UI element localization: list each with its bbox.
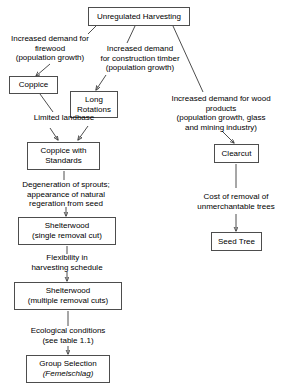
node-label-line1: Long: [85, 95, 103, 105]
node-label-line1: Unregulated Harvesting: [97, 12, 181, 22]
edge-label-line: Limited landbase: [16, 113, 112, 123]
flowchart-canvas: Unregulated Harvesting Coppice Long Rota…: [0, 0, 289, 391]
edge-label-line: appearance of natural: [2, 190, 130, 200]
node-unregulated-harvesting[interactable]: Unregulated Harvesting: [88, 7, 190, 26]
edge-harvesting-to-firewood-label: [88, 26, 96, 34]
edge-label-line: firewood: [2, 44, 98, 54]
node-seed-tree[interactable]: Seed Tree: [211, 232, 262, 251]
edge-label-line: regeration from seed: [2, 199, 130, 209]
edge-wood-products-to-clearcut: [222, 131, 234, 143]
node-label-line1: Coppice with: [41, 146, 87, 156]
edge-label-ecological-conditions: Ecological conditions (see table 1.1): [13, 326, 123, 345]
node-label-line1: Shelterwood: [46, 286, 90, 296]
edge-label-line: (see table 1.1): [13, 336, 123, 346]
node-label-line1: Clearcut: [222, 149, 252, 159]
edge-label-line: Degeneration of sprouts;: [2, 180, 130, 190]
edge-timber-to-long-rotations: [96, 75, 106, 90]
edge-label-construction-timber-demand: Increased demand for construction timber…: [88, 44, 192, 73]
edge-label-line: (population growth, glass: [156, 113, 286, 123]
edge-coppice-to-landbase-label: [40, 94, 53, 112]
edge-label-line: Flexibility in: [13, 253, 121, 263]
edge-label-line: Increased demand for wood: [156, 94, 286, 104]
edge-label-line: Cost of removal of: [176, 192, 289, 202]
edge-landbase-to-coppice-standards: [50, 128, 58, 140]
edge-label-line: unmerchantable trees: [176, 202, 289, 212]
edge-label-line: (population growth): [88, 63, 192, 73]
node-label-line2: (multiple removal cuts): [28, 296, 108, 306]
edge-label-wood-products-demand: Increased demand for wood products (popu…: [156, 94, 286, 132]
node-shelterwood-multiple-removal-cuts[interactable]: Shelterwood (multiple removal cuts): [14, 282, 122, 310]
edge-label-degeneration-of-sprouts: Degeneration of sprouts; appearance of n…: [2, 180, 130, 209]
node-clearcut[interactable]: Clearcut: [214, 144, 259, 163]
node-label-line1: Shelterwood: [45, 221, 89, 231]
edge-label-line: Increased demand: [88, 44, 192, 54]
edge-long-rotations-to-coppice-standards: [78, 126, 88, 140]
node-label-line2: Standards: [45, 156, 81, 166]
edge-label-line: Increased demand for: [2, 34, 98, 44]
node-group-selection[interactable]: Group Selection (Femelschlag): [26, 355, 110, 383]
node-coppice[interactable]: Coppice: [9, 76, 58, 94]
edge-label-line: (population growth): [2, 53, 98, 63]
edge-label-line: Ecological conditions: [13, 326, 123, 336]
edge-label-flexibility-harvesting: Flexibility in harvesting schedule: [13, 253, 121, 272]
edge-label-line: harvesting schedule: [13, 263, 121, 273]
node-coppice-with-standards[interactable]: Coppice with Standards: [27, 142, 100, 170]
edge-harvesting-to-timber-label: [127, 26, 135, 43]
edge-label-line: for construction timber: [88, 54, 192, 64]
node-label-line1: Seed Tree: [218, 237, 255, 247]
node-shelterwood-single-removal-cut[interactable]: Shelterwood (single removal cut): [18, 217, 116, 245]
edge-label-line: and mining industry): [156, 123, 286, 133]
node-label-line1: Group Selection: [39, 359, 96, 369]
node-label-line1: Coppice: [19, 80, 48, 90]
edge-label-line: products: [156, 104, 286, 114]
node-label-line2: (Femelschlag): [43, 369, 94, 379]
edge-label-limited-landbase: Limited landbase: [16, 113, 112, 123]
edge-firewood-to-coppice: [36, 64, 50, 76]
edge-label-firewood-demand: Increased demand for firewood (populatio…: [2, 34, 98, 63]
node-label-line2: (single removal cut): [32, 231, 102, 241]
edge-label-cost-of-removal: Cost of removal of unmerchantable trees: [176, 192, 289, 211]
